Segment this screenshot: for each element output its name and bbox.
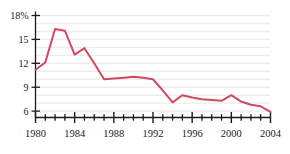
line-chart: 69121518% 1980198419881992199620002004 — [0, 0, 290, 154]
y-axis: 69121518% — [10, 10, 40, 117]
x-axis: 1980198419881992199620002004 — [25, 112, 282, 139]
chart-canvas: 69121518% 1980198419881992199620002004 — [0, 0, 290, 154]
data-series-line — [36, 29, 271, 112]
x-axis-tick-label: 2000 — [221, 128, 242, 139]
y-axis-tick-label: 15 — [19, 34, 29, 45]
x-axis-tick-label: 1980 — [25, 128, 46, 139]
series-line — [36, 29, 271, 112]
x-axis-tick-label: 1992 — [143, 128, 164, 139]
x-axis-tick-label: 1996 — [182, 128, 203, 139]
x-axis-tick-label: 1988 — [103, 128, 124, 139]
y-axis-tick-label: 9 — [24, 82, 29, 93]
x-axis-tick-label: 1984 — [64, 128, 86, 139]
y-axis-tick-label: 12 — [19, 58, 29, 69]
x-axis-tick-label: 2004 — [260, 128, 282, 139]
y-axis-tick-label: 6 — [24, 106, 29, 117]
y-axis-tick-label: 18% — [10, 10, 28, 21]
